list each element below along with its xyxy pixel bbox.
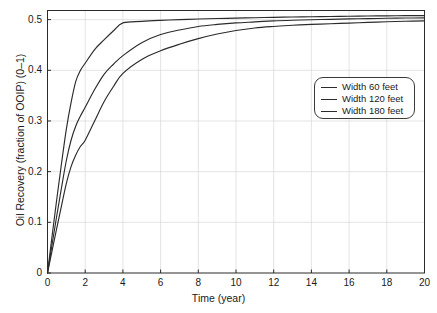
legend-line-icon	[321, 99, 337, 100]
y-axis-title-wrapper: Oil Recovery (fraction of OOIP) (0–1)	[10, 5, 24, 275]
y-axis-title: Oil Recovery (fraction of OOIP) (0–1)	[14, 54, 26, 227]
x-tick-label: 18	[375, 278, 399, 288]
x-tick-label: 6	[149, 278, 173, 288]
x-axis-title: Time (year)	[0, 292, 437, 304]
x-tick-label: 16	[337, 278, 361, 288]
legend-item-width-120[interactable]: Width 120 feet	[319, 93, 410, 105]
x-tick-label: 20	[413, 278, 437, 288]
x-tick-label: 12	[262, 278, 286, 288]
gridlines	[48, 11, 425, 274]
x-tick-label: 10	[224, 278, 248, 288]
legend-item-width-60[interactable]: Width 60 feet	[319, 81, 410, 93]
legend-item-label: Width 60 feet	[342, 81, 398, 93]
legend-item-width-180[interactable]: Width 180 feet	[319, 105, 410, 117]
legend-item-label: Width 120 feet	[342, 93, 403, 105]
legend-line-icon	[321, 87, 337, 88]
figure-canvas: 00.10.20.30.40.5 02468101214161820 Time …	[0, 0, 437, 313]
x-tick-label: 8	[186, 278, 210, 288]
chart-plot-area	[0, 0, 437, 313]
x-tick-label: 4	[111, 278, 135, 288]
x-tick-label: 14	[299, 278, 323, 288]
legend-line-icon	[321, 111, 337, 112]
chart-legend[interactable]: Width 60 feet Width 120 feet Width 180 f…	[314, 77, 415, 119]
x-tick-label: 2	[73, 278, 97, 288]
x-tick-label: 0	[36, 278, 60, 288]
legend-item-label: Width 180 feet	[342, 105, 403, 117]
